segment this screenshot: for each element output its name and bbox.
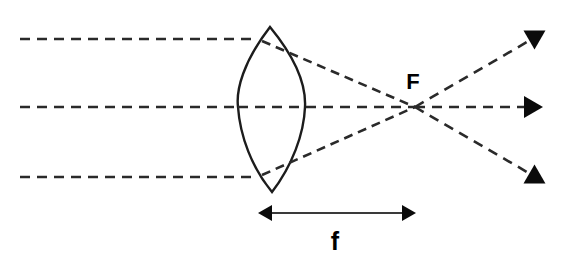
arrowhead-axis-ray-icon xyxy=(524,96,543,118)
focal-length-right-arrowhead-icon xyxy=(402,205,416,221)
focal-length-label: f xyxy=(331,227,340,255)
lens-group xyxy=(238,27,305,192)
converging-lens-outline xyxy=(238,27,305,192)
arrowhead-upper-ray-icon xyxy=(524,21,551,50)
ray-top-refracted xyxy=(262,41,415,107)
ray-bottom-refracted xyxy=(262,107,415,175)
focal-point-label: F xyxy=(406,69,419,94)
focal-length-measure-group xyxy=(258,205,416,221)
ray-diagram-canvas: F f xyxy=(0,0,572,268)
ray-lower-diverging xyxy=(415,107,527,172)
ray-upper-diverging xyxy=(415,42,527,107)
diverging-ray-group xyxy=(415,42,527,172)
incoming-ray-group xyxy=(20,39,258,177)
optics-ray-diagram: F f xyxy=(0,0,572,268)
focal-length-left-arrowhead-icon xyxy=(258,205,272,221)
arrowhead-lower-ray-icon xyxy=(524,164,551,193)
arrowhead-group xyxy=(524,21,551,193)
refracted-ray-group xyxy=(238,41,415,175)
